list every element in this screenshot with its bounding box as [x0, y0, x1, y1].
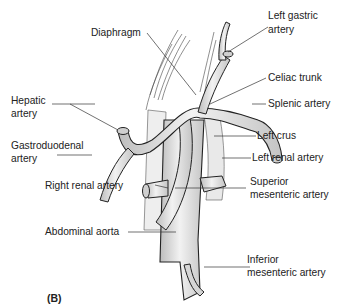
label-celiac-trunk: Celiac trunk: [268, 72, 322, 84]
anatomy-diagram: Diaphragm Left gastric artery Celiac tru…: [0, 0, 351, 307]
label-splenic-artery: Splenic artery: [268, 98, 330, 110]
label-inferior-mesenteric-line2: mesenteric artery: [247, 267, 326, 279]
label-diaphragm: Diaphragm: [91, 27, 141, 39]
label-abdominal-aorta: Abdominal aorta: [45, 226, 119, 238]
label-right-renal-artery: Right renal artery: [45, 180, 123, 192]
label-superior-mesenteric-line2: mesenteric artery: [250, 189, 329, 201]
label-hepatic-artery-line2: artery: [11, 108, 37, 120]
label-superior-mesenteric-line1: Superior: [250, 176, 289, 188]
label-left-crus: Left crus: [257, 130, 296, 142]
label-left-gastric-artery-line1: Left gastric: [268, 10, 318, 22]
label-left-gastric-artery-line2: artery: [268, 24, 294, 36]
label-inferior-mesenteric-line1: Inferior: [247, 254, 279, 266]
label-hepatic-artery-line1: Hepatic: [11, 95, 46, 107]
label-gastroduodenal-artery-line2: artery: [11, 153, 37, 165]
panel-label: (B): [47, 292, 62, 304]
label-left-renal-artery: Left renal artery: [252, 152, 323, 164]
label-gastroduodenal-artery-line1: Gastroduodenal: [11, 140, 84, 152]
